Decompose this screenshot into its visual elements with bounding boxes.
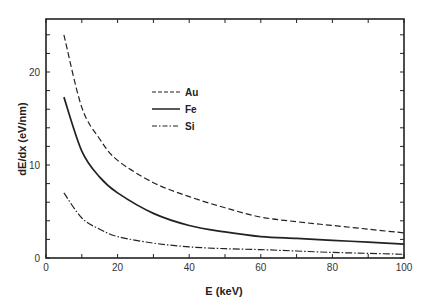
x-tick-label: 0 [43, 262, 49, 273]
x-tick-label: 80 [327, 262, 339, 273]
x-tick-label: 60 [255, 262, 267, 273]
legend-label-si: Si [185, 121, 195, 132]
stopping-power-chart: 02040608010001020 AuFeSi E (keV) dE/dx (… [0, 0, 430, 305]
legend-label-au: Au [185, 87, 198, 98]
x-tick-label: 20 [112, 262, 124, 273]
y-axis-title: dE/dx (eV/nm) [16, 102, 28, 176]
x-axis-title: E (keV) [205, 285, 243, 297]
y-tick-label: 10 [29, 160, 41, 171]
data-series [64, 35, 404, 254]
series-line-au [64, 35, 404, 233]
x-tick-label: 40 [184, 262, 196, 273]
x-tick-label: 100 [396, 262, 413, 273]
legend-label-fe: Fe [185, 104, 197, 115]
series-line-si [64, 193, 404, 254]
legend: AuFeSi [152, 87, 198, 132]
series-line-fe [64, 97, 404, 244]
y-tick-label: 20 [29, 67, 41, 78]
y-tick-label: 0 [34, 253, 40, 264]
